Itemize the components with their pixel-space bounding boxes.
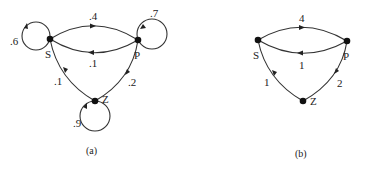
edge-label: .2	[128, 76, 136, 88]
edge-p-p-loop	[137, 19, 167, 49]
edge-label: .9	[73, 117, 82, 129]
caption-b: (b)	[295, 148, 307, 160]
edge-label: .4	[89, 10, 98, 22]
node-label-p: P	[343, 50, 349, 62]
node-z	[300, 98, 307, 105]
caption-a: (a)	[86, 145, 97, 157]
edge-s-p	[50, 26, 138, 40]
node-s	[255, 37, 262, 44]
arrow-icon	[125, 69, 130, 75]
node-label-s: S	[253, 49, 259, 61]
node-label-s: S	[45, 48, 51, 60]
arrow-icon	[90, 24, 96, 29]
node-s	[47, 36, 54, 43]
arrow-icon	[140, 24, 146, 29]
edge-label: .1	[89, 57, 97, 69]
edge-label: 4	[299, 12, 305, 24]
edge-label: 1	[299, 59, 305, 71]
arrow-icon	[299, 25, 305, 30]
arrow-icon	[24, 23, 28, 29]
edge-label: .7	[150, 7, 159, 19]
diagram-canvas: S P Z .6 .4 .1 .7 .2 .1 .9 (a) S P Z	[0, 0, 368, 170]
edge-z-s	[258, 40, 303, 101]
node-p	[344, 38, 351, 45]
edge-label: .1	[54, 75, 62, 87]
arrow-icon	[297, 51, 303, 56]
edge-z-s	[50, 39, 95, 101]
edge-label: 1	[264, 76, 270, 88]
node-label-z: Z	[310, 95, 317, 107]
edge-label: 2	[337, 77, 343, 89]
diagram-b: S P Z 4 1 2 1 (b)	[253, 12, 350, 160]
edge-label: .6	[10, 35, 19, 47]
node-z	[92, 98, 99, 105]
edge-s-p	[258, 27, 347, 41]
node-p	[135, 37, 142, 44]
arrow-icon	[334, 68, 339, 74]
arrow-icon	[88, 50, 94, 55]
diagram-a: S P Z .6 .4 .1 .7 .2 .1 .9 (a)	[10, 7, 167, 157]
node-label-p: P	[134, 49, 140, 61]
node-label-z: Z	[102, 93, 109, 105]
